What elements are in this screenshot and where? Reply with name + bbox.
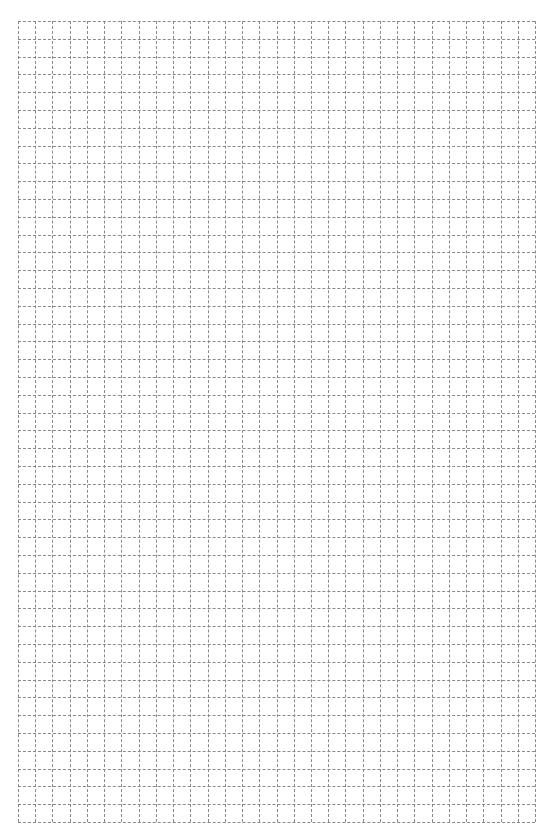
grid-horizontal-line <box>18 270 535 271</box>
grid-horizontal-line <box>18 306 535 307</box>
grid-vertical-line <box>345 21 346 822</box>
grid-horizontal-line <box>18 146 535 147</box>
grid-horizontal-line <box>18 769 535 770</box>
grid-horizontal-line <box>18 822 535 823</box>
grid-horizontal-line <box>18 715 535 716</box>
grid-horizontal-line <box>18 484 535 485</box>
grid-vertical-line <box>483 21 484 822</box>
grid-vertical-line <box>18 21 19 822</box>
grid-vertical-line <box>87 21 88 822</box>
grid-vertical-line <box>501 21 502 822</box>
grid-horizontal-line <box>18 448 535 449</box>
grid-horizontal-line <box>18 786 535 787</box>
grid-horizontal-line <box>18 217 535 218</box>
grid-vertical-line <box>139 21 140 822</box>
grid-horizontal-line <box>18 626 535 627</box>
grid-horizontal-line <box>18 252 535 253</box>
grid-vertical-line <box>259 21 260 822</box>
grid-horizontal-line <box>18 662 535 663</box>
grid-horizontal-line <box>18 181 535 182</box>
grid-vertical-line <box>121 21 122 822</box>
grid-horizontal-line <box>18 733 535 734</box>
grid-horizontal-line <box>18 39 535 40</box>
grid-vertical-line <box>294 21 295 822</box>
grid-vertical-line <box>190 21 191 822</box>
grid-vertical-line <box>432 21 433 822</box>
grid-vertical-line <box>466 21 467 822</box>
grid-horizontal-line <box>18 377 535 378</box>
grid-horizontal-line <box>18 430 535 431</box>
grid-horizontal-line <box>18 199 535 200</box>
grid-horizontal-line <box>18 395 535 396</box>
grid-horizontal-line <box>18 644 535 645</box>
grid-vertical-line <box>397 21 398 822</box>
grid-horizontal-line <box>18 92 535 93</box>
grid-vertical-line <box>104 21 105 822</box>
grid-horizontal-line <box>18 537 535 538</box>
grid-vertical-line <box>311 21 312 822</box>
grid-horizontal-line <box>18 359 535 360</box>
grid-vertical-line <box>156 21 157 822</box>
grid-horizontal-line <box>18 751 535 752</box>
grid-vertical-line <box>242 21 243 822</box>
grid-vertical-line <box>173 21 174 822</box>
grid-horizontal-line <box>18 21 535 22</box>
grid-horizontal-line <box>18 697 535 698</box>
grid-horizontal-line <box>18 466 535 467</box>
grid-vertical-line <box>449 21 450 822</box>
grid-paper <box>18 21 535 822</box>
grid-horizontal-line <box>18 608 535 609</box>
grid-horizontal-line <box>18 235 535 236</box>
grid-vertical-line <box>414 21 415 822</box>
grid-vertical-line <box>208 21 209 822</box>
grid-horizontal-line <box>18 591 535 592</box>
grid-horizontal-line <box>18 680 535 681</box>
grid-horizontal-line <box>18 341 535 342</box>
grid-vertical-line <box>277 21 278 822</box>
grid-horizontal-line <box>18 74 535 75</box>
grid-horizontal-line <box>18 555 535 556</box>
grid-vertical-line <box>363 21 364 822</box>
grid-horizontal-line <box>18 502 535 503</box>
grid-vertical-line <box>380 21 381 822</box>
grid-horizontal-line <box>18 413 535 414</box>
grid-horizontal-line <box>18 519 535 520</box>
grid-horizontal-line <box>18 804 535 805</box>
grid-vertical-line <box>535 21 536 822</box>
grid-horizontal-line <box>18 163 535 164</box>
grid-vertical-line <box>328 21 329 822</box>
grid-vertical-line <box>70 21 71 822</box>
grid-horizontal-line <box>18 110 535 111</box>
grid-vertical-line <box>225 21 226 822</box>
grid-horizontal-line <box>18 573 535 574</box>
grid-horizontal-line <box>18 128 535 129</box>
grid-vertical-line <box>518 21 519 822</box>
grid-horizontal-line <box>18 57 535 58</box>
grid-vertical-line <box>35 21 36 822</box>
grid-horizontal-line <box>18 324 535 325</box>
grid-vertical-line <box>52 21 53 822</box>
grid-horizontal-line <box>18 288 535 289</box>
